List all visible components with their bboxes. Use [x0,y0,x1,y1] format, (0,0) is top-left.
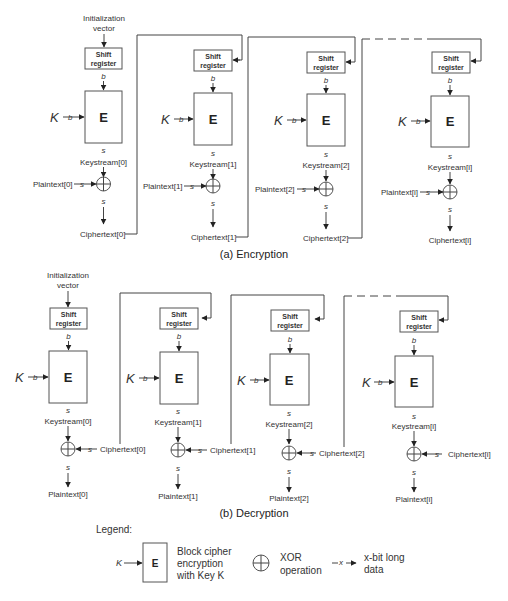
e-label: E [410,375,419,390]
b-label: b [412,336,417,345]
plaintext-label: Plaintext[i] [381,188,418,197]
keystream-label: Keystream[i] [428,163,472,172]
s-label: s [211,149,215,158]
shift-label: Shift [205,53,221,60]
iv-label-line2: vector [57,281,79,290]
key-label: K [237,373,247,388]
s-label: s [448,152,452,161]
plaintext-label: Plaintext[1] [158,492,198,501]
b-label: b [288,335,293,344]
keystream-label: Keystream[2] [302,161,349,170]
ciphertext-s-label: s [310,449,314,458]
shift-label: Shift [96,51,112,58]
key-label: K [126,371,136,386]
b-label: b [66,332,71,341]
b-label: b [177,332,182,341]
register-label: register [56,320,82,328]
s-label: s [412,412,416,421]
e-label: E [99,110,108,125]
e-label: E [446,114,455,129]
decryption-section: Initialization vector Shift register b E… [15,271,491,519]
s-out-label: s [102,197,106,206]
legend-block-desc-2: encryption [177,558,223,569]
register-label: register [200,62,226,70]
legend-xor-desc-1: XOR [280,552,302,563]
ciphertext-label: Ciphertext[1] [191,233,236,242]
ciphertext-s-label: s [198,446,202,455]
keystream-label: Keystream[2] [265,420,312,429]
shift-label: Shift [171,311,187,318]
s-label: s [176,407,180,416]
register-label: register [91,60,117,68]
cfb-mode-diagram: Initialization vector Shift register b E… [0,0,508,601]
e-label: E [175,371,184,386]
b-label: b [448,76,453,85]
s-out-label: s [176,464,180,473]
e-label: E [322,113,331,128]
ciphertext-label: Ciphertext[0] [100,445,145,454]
keystream-label: Keystream[1] [189,160,236,169]
ciphertext-label: Ciphertext[2] [303,234,348,243]
shift-label: Shift [282,313,298,320]
ciphertext-label: Ciphertext[i] [429,236,472,245]
dec-stage-i: Shift register b E K b s Keystream[i] s … [362,311,491,504]
s-label: s [102,146,106,155]
register-label: register [277,322,303,330]
s-out-label: s [412,468,416,477]
e-label: E [209,112,218,127]
ciphertext-label: Ciphertext[2] [319,449,364,458]
key-label: K [161,112,171,127]
keystream-label: Keystream[0] [44,417,91,426]
s-out-label: s [66,463,70,472]
encryption-section: Initialization vector Shift register b E… [33,14,481,260]
register-label: register [313,64,339,72]
legend-data-desc-1: x-bit long [364,552,405,563]
keystream-label: Keystream[i] [392,422,436,431]
s-out-label: s [448,205,452,214]
key-label: K [274,113,284,128]
s-out-label: s [211,199,215,208]
iv-label-line1: Initialization [47,271,89,280]
shift-label: Shift [443,55,459,62]
s-out-label: s [324,202,328,211]
key-label: K [50,110,60,125]
ciphertext-s-label: s [435,450,439,459]
s-out-label: s [287,467,291,476]
legend-key-label: K [116,558,123,568]
shift-label: Shift [318,55,334,62]
key-label: K [362,375,372,390]
legend-data-desc-2: data [364,564,384,575]
b-label: b [211,74,216,83]
enc-stage-i: Shift register b E K b s Keystream[i] Pl… [381,52,472,245]
keystream-label: Keystream[1] [154,418,201,427]
e-label: E [285,373,294,388]
shift-label: Shift [411,314,427,321]
plaintext-label: Plaintext[2] [255,185,295,194]
legend-title: Legend: [96,524,132,535]
plaintext-label: Plaintext[2] [269,494,309,503]
legend-e-label: E [152,558,159,569]
b-label: b [101,72,106,81]
ciphertext-label: Ciphertext[0] [80,230,125,239]
legend-block-desc-3: with Key K [176,570,225,581]
legend-block-desc-1: Block cipher [177,546,232,557]
ciphertext-label: Ciphertext[i] [448,450,491,459]
register-label: register [438,64,464,72]
feedback-line [348,39,362,238]
ciphertext-s-label: s [88,445,92,454]
key-label: K [398,114,408,129]
ciphertext-label: Ciphertext[1] [210,446,255,455]
key-label: K [15,370,25,385]
plaintext-label: Plaintext[i] [396,495,433,504]
e-label: E [64,370,73,385]
keystream-label: Keystream[0] [80,158,127,167]
plaintext-label: Plaintext[1] [143,182,183,191]
shift-label: Shift [61,311,77,318]
plaintext-label: Plaintext[0] [33,180,73,189]
register-label: register [406,323,432,331]
encryption-caption: (a) Encryption [220,248,288,260]
s-label: s [287,409,291,418]
iv-label-line2: vector [93,24,115,33]
decryption-caption: (b) Decryption [219,507,288,519]
s-label: s [66,406,70,415]
